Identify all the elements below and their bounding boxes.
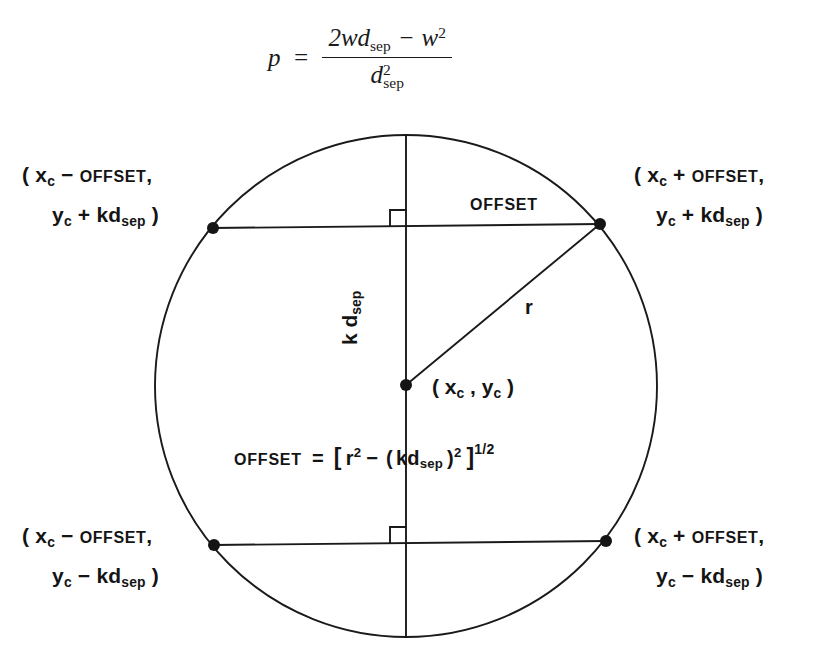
- kd-term: kd: [96, 564, 121, 587]
- operator: −: [61, 163, 73, 186]
- operator: +: [78, 203, 90, 226]
- numerator-minus: −: [391, 24, 422, 51]
- label-bottom-left: ( xc − OFFSET, yc − kdsep ): [22, 519, 159, 599]
- x-sub: c: [47, 534, 55, 550]
- kd-text: k d: [338, 315, 361, 345]
- offset-equation: OFFSET=[r2−(kdsep)2]1/2: [234, 441, 494, 471]
- operator: −: [61, 524, 73, 547]
- paren-close: ): [756, 564, 763, 587]
- kd-term: kd: [700, 203, 725, 226]
- x-var: x: [647, 524, 659, 547]
- formula-numerator: 2wdsep−w2: [322, 24, 452, 57]
- offset-segment-label: OFFSET: [470, 196, 538, 214]
- offset-term: OFFSET: [692, 168, 759, 185]
- kd-sub: sep: [725, 213, 749, 229]
- point-bottom-left: [208, 539, 220, 551]
- bracket-close: ]: [461, 444, 474, 470]
- formula-fraction: 2wdsep−w2 d2sep: [322, 24, 452, 92]
- offset-term: OFFSET: [692, 529, 759, 546]
- operator: +: [673, 524, 685, 547]
- label-bottom-right-line1: ( xc + OFFSET,: [634, 524, 764, 547]
- point-bottom-right: [600, 535, 612, 547]
- operator: −: [682, 564, 694, 587]
- point-top-left: [207, 222, 219, 234]
- x-sub: c: [659, 534, 667, 550]
- label-top-right: ( xc + OFFSET, yc + kdsep ): [634, 158, 764, 238]
- y-var: y: [52, 564, 64, 587]
- paren-close: ): [152, 564, 159, 587]
- r-var: r: [342, 447, 354, 469]
- offset-eq-lhs: OFFSET: [234, 451, 302, 468]
- kd-sub: sep: [121, 213, 145, 229]
- paren-open: (: [634, 163, 641, 186]
- x-var: x: [445, 375, 457, 398]
- kd-term: kd: [393, 447, 420, 469]
- radius-line: [406, 224, 600, 385]
- operator: −: [78, 564, 90, 587]
- y-sub: c: [493, 385, 501, 401]
- label-bottom-left-line2: yc − kdsep ): [22, 559, 159, 599]
- x-var: x: [35, 163, 47, 186]
- denominator-sub: sep: [383, 74, 404, 91]
- paren-open: (: [22, 163, 29, 186]
- paren-open: (: [22, 524, 29, 547]
- comma: ,: [758, 163, 764, 186]
- point-top-right: [594, 218, 606, 230]
- formula-lhs: p: [268, 44, 281, 72]
- numerator-term-b: w: [422, 24, 439, 51]
- top-formula: p = 2wdsep−w2 d2sep: [268, 24, 452, 92]
- label-top-right-line2: yc + kdsep ): [634, 198, 764, 238]
- label-top-left-line1: ( xc − OFFSET,: [22, 163, 152, 186]
- center-point-label: ( xc , yc ): [432, 375, 514, 401]
- y-var: y: [482, 375, 494, 398]
- label-bottom-right-line2: yc − kdsep ): [634, 559, 764, 599]
- lower-chord-line: [214, 541, 606, 545]
- comma: ,: [470, 375, 476, 398]
- y-sub: c: [64, 213, 72, 229]
- y-var: y: [656, 564, 668, 587]
- kd-sub: sep: [348, 291, 364, 315]
- label-top-left-line2: yc + kdsep ): [22, 198, 159, 238]
- x-sub: c: [47, 173, 55, 189]
- comma: ,: [146, 163, 152, 186]
- kd-sub: sep: [121, 574, 145, 590]
- paren-close: ): [507, 375, 514, 398]
- x-sub: c: [659, 173, 667, 189]
- formula-equals: =: [293, 44, 310, 72]
- denominator-term: d: [370, 61, 383, 88]
- offset-term: OFFSET: [80, 529, 147, 546]
- label-bottom-left-line1: ( xc − OFFSET,: [22, 524, 152, 547]
- bracket-open: [: [334, 444, 342, 470]
- paren-open: (: [383, 447, 393, 469]
- vertical-segment-label: k dsep: [338, 291, 364, 345]
- kd-term: kd: [96, 203, 121, 226]
- numerator-term-a-sub: sep: [370, 37, 391, 54]
- y-sub: c: [64, 574, 72, 590]
- kd-sub: sep: [420, 456, 443, 471]
- comma: ,: [758, 524, 764, 547]
- formula-denominator: d2sep: [364, 58, 409, 92]
- y-var: y: [52, 203, 64, 226]
- offset-eq-equals: =: [312, 447, 324, 469]
- y-sub: c: [668, 213, 676, 229]
- kd-sub: sep: [725, 574, 749, 590]
- x-var: x: [35, 524, 47, 547]
- numerator-term-a: 2wd: [328, 24, 370, 51]
- comma: ,: [146, 524, 152, 547]
- operator: +: [673, 163, 685, 186]
- radius-label: r: [525, 296, 533, 319]
- operator: +: [682, 203, 694, 226]
- label-bottom-right: ( xc + OFFSET, yc − kdsep ): [634, 519, 764, 599]
- y-sub: c: [668, 574, 676, 590]
- exponent-one-half: 1/2: [474, 441, 494, 457]
- label-top-left: ( xc − OFFSET, yc + kdsep ): [22, 158, 159, 238]
- paren-open: (: [432, 375, 439, 398]
- paren-open: (: [634, 524, 641, 547]
- x-sub: c: [457, 385, 465, 401]
- right-angle-mark-upper: [390, 210, 407, 227]
- numerator-term-b-sup: 2: [438, 24, 446, 41]
- x-var: x: [647, 163, 659, 186]
- y-var: y: [656, 203, 668, 226]
- offset-term: OFFSET: [80, 168, 147, 185]
- paren-close: ): [756, 203, 763, 226]
